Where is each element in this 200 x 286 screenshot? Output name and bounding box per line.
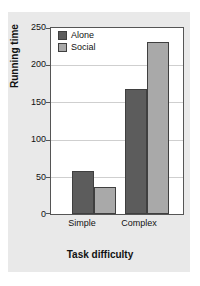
bar-simple-alone — [72, 171, 94, 214]
bar-chart-figure: 250 200 150 100 50 0 Running time — [0, 0, 200, 286]
y-tick-label-0: 0 — [20, 210, 46, 219]
legend-item-social: Social — [58, 42, 96, 52]
legend-swatch-alone-icon — [58, 31, 67, 40]
y-tick-250 — [46, 28, 51, 29]
legend-label-alone: Alone — [71, 31, 94, 40]
y-tick-label-50: 50 — [20, 173, 46, 182]
plot-area — [50, 27, 184, 215]
chart-legend: Alone Social — [58, 30, 96, 52]
bar-simple-social — [94, 187, 116, 214]
y-axis-title: Running time — [9, 24, 20, 88]
y-tick-0 — [46, 213, 51, 214]
y-tick-200 — [46, 65, 51, 66]
y-tick-100 — [46, 140, 51, 141]
y-tick-150 — [46, 102, 51, 103]
x-tick-label-simple: Simple — [57, 218, 107, 228]
x-tick-label-complex: Complex — [110, 218, 168, 228]
legend-item-alone: Alone — [58, 30, 96, 40]
x-axis-title: Task difficulty — [0, 249, 200, 260]
legend-label-social: Social — [71, 43, 96, 52]
y-tick-label-200: 200 — [20, 60, 46, 69]
bar-complex-alone — [125, 89, 147, 214]
bar-complex-social — [147, 42, 169, 214]
y-tick-label-100: 100 — [20, 135, 46, 144]
legend-swatch-social-icon — [58, 43, 67, 52]
y-tick-50 — [46, 177, 51, 178]
y-tick-label-250: 250 — [20, 23, 46, 32]
y-tick-label-150: 150 — [20, 98, 46, 107]
